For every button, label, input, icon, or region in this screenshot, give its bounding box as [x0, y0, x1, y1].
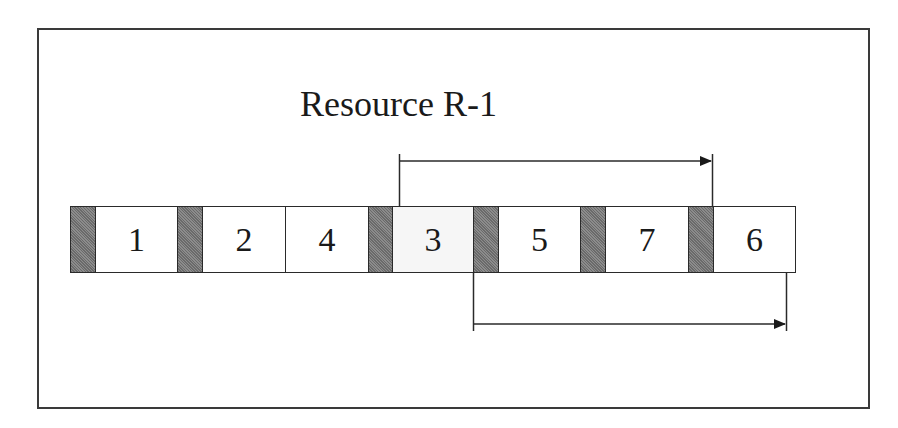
bottom-arrow — [474, 273, 787, 331]
arrows-layer — [0, 0, 898, 428]
top-arrow — [400, 154, 713, 206]
